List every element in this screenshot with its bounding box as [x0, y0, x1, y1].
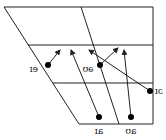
diphthong-arrows: eɪəʊɔɪaɪaʊ [30, 48, 163, 136]
start-dot [128, 114, 134, 120]
arrow-icon [89, 50, 150, 91]
arrow-icon [100, 48, 118, 65]
start-dot [96, 114, 102, 120]
diphthong-label: ɔɪ [155, 86, 163, 96]
diphthong-label: eɪ [30, 64, 38, 74]
start-dot [97, 62, 103, 68]
diphthong-1: əʊ [82, 48, 118, 74]
chart-frame [4, 7, 153, 124]
diphthong-label: əʊ [82, 64, 93, 74]
start-dot [147, 88, 153, 94]
diphthong-4: aʊ [124, 50, 136, 136]
vowel-chart: eɪəʊɔɪaɪaʊ [0, 0, 166, 140]
vowel-quadrilateral [4, 7, 153, 124]
diphthong-label: aʊ [125, 126, 136, 136]
start-dot [45, 62, 51, 68]
diphthong-label: aɪ [95, 126, 103, 136]
